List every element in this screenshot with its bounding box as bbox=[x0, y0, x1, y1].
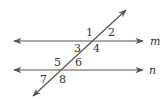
line-n-label: n bbox=[149, 64, 156, 77]
angle-8-label: 8 bbox=[59, 73, 66, 86]
angle-1-label: 1 bbox=[86, 26, 93, 39]
angle-3-label: 3 bbox=[74, 42, 81, 55]
line-m-label: m bbox=[150, 35, 160, 48]
diagram-canvas: m n 1 2 3 4 5 6 7 8 bbox=[0, 0, 167, 99]
angle-7-label: 7 bbox=[40, 73, 47, 86]
angle-6-label: 6 bbox=[75, 56, 82, 69]
angle-4-label: 4 bbox=[93, 42, 100, 55]
angle-2-label: 2 bbox=[108, 26, 115, 39]
angle-5-label: 5 bbox=[54, 56, 61, 69]
